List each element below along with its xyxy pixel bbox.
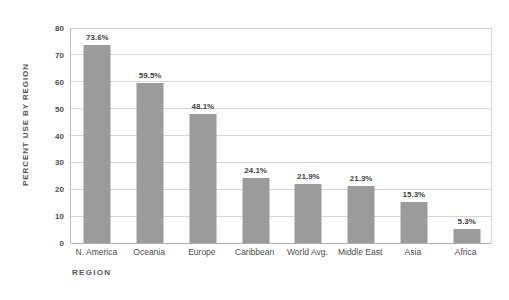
bar[interactable] [189, 114, 216, 243]
x-axis-tick-label: Middle East [338, 247, 382, 257]
x-axis-tick-label: Asia [405, 247, 422, 257]
x-axis-title: REGION [72, 268, 111, 277]
bar[interactable] [242, 178, 269, 243]
y-axis-tick-label: 10 [4, 212, 64, 221]
bar[interactable] [84, 45, 111, 243]
y-axis-tick-label: 20 [4, 185, 64, 194]
bars-layer: 73.6%59.5%48.1%24.1%21.9%21.3%15.3%5.3% [71, 28, 491, 243]
bar[interactable] [400, 202, 427, 243]
bar[interactable] [137, 83, 164, 243]
bar-chart: PERCENT USE BY REGION 01020304050607080 … [0, 0, 509, 300]
bar[interactable] [453, 229, 480, 243]
bar-value-label: 21.3% [350, 174, 373, 183]
bar-group: 59.5% [124, 28, 177, 243]
bar-value-label: 48.1% [192, 102, 215, 111]
x-axis-tick-label: Africa [455, 247, 477, 257]
y-axis-tick-label: 60 [4, 78, 64, 87]
x-axis-tick-labels: N. AmericaOceaniaEuropeCaribbeanWorld Av… [70, 247, 492, 263]
bar-group: 48.1% [177, 28, 230, 243]
x-axis-tick-label: World Avg. [287, 247, 328, 257]
y-axis-tick-label: 0 [4, 239, 64, 248]
bar-value-label: 24.1% [244, 166, 267, 175]
bar-group: 21.3% [335, 28, 388, 243]
bar[interactable] [348, 186, 375, 243]
bar-group: 15.3% [388, 28, 441, 243]
bar-value-label: 15.3% [403, 190, 426, 199]
y-axis-tick-label: 30 [4, 158, 64, 167]
y-axis-tick-label: 80 [4, 24, 64, 33]
bar-group: 73.6% [71, 28, 124, 243]
y-axis-tick-labels: 01020304050607080 [0, 28, 64, 243]
y-axis-tick-label: 40 [4, 132, 64, 141]
bar-value-label: 21.9% [297, 172, 320, 181]
x-axis-tick-label: Europe [188, 247, 215, 257]
bar-value-label: 73.6% [86, 33, 109, 42]
x-axis-tick-label: Oceania [133, 247, 165, 257]
y-axis-tick-label: 70 [4, 51, 64, 60]
bar-group: 24.1% [229, 28, 282, 243]
plot-area: 73.6%59.5%48.1%24.1%21.9%21.3%15.3%5.3% [70, 28, 492, 243]
y-axis-tick-label: 50 [4, 105, 64, 114]
bar-group: 21.9% [282, 28, 335, 243]
bar-value-label: 5.3% [458, 217, 476, 226]
x-axis-tick-label: N. America [76, 247, 118, 257]
bar-value-label: 59.5% [139, 71, 162, 80]
bar-group: 5.3% [440, 28, 493, 243]
bar[interactable] [295, 184, 322, 243]
x-axis-tick-label: Caribbean [235, 247, 274, 257]
